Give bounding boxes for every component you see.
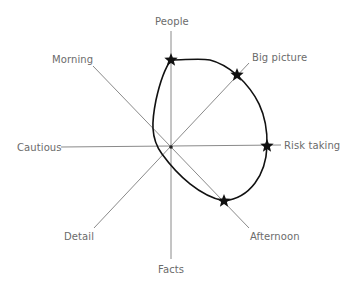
label-people: People [155, 16, 189, 28]
label-detail: Detail [64, 231, 94, 243]
star-icon [217, 194, 230, 207]
label-morning: Morning [52, 54, 93, 66]
label-risk-taking: Risk taking [284, 140, 340, 152]
profile-curve [153, 59, 267, 201]
axis-lines [61, 31, 281, 259]
center-point [169, 145, 173, 149]
label-cautious: Cautious [17, 142, 62, 154]
star-markers [164, 53, 273, 207]
label-facts: Facts [158, 264, 184, 276]
label-afternoon: Afternoon [250, 231, 300, 243]
radial-profile-diagram: People Big picture Risk taking Afternoon… [0, 0, 350, 288]
label-big-picture: Big picture [252, 52, 307, 64]
